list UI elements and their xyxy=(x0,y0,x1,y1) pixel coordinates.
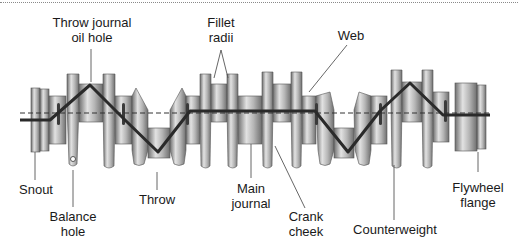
leader-fillet-2 xyxy=(221,50,228,78)
web-3a xyxy=(200,74,211,168)
label-snout: Snout xyxy=(14,182,58,197)
throw-journal-5 xyxy=(334,128,354,158)
web-5b xyxy=(354,92,371,166)
web-1b xyxy=(103,74,115,168)
flywheel-flange xyxy=(455,83,477,151)
throw-journal-3 xyxy=(211,84,227,122)
label-counterweight: Counterweight xyxy=(348,222,442,237)
label-balance-hole: Balance hole xyxy=(46,209,100,239)
label-web: Web xyxy=(333,28,369,43)
web-6b xyxy=(422,70,433,168)
web-3b xyxy=(227,74,238,168)
web-4b xyxy=(291,72,302,168)
label-flywheel-flange: Flywheel flange xyxy=(448,180,508,210)
label-crank-cheek: Crank cheek xyxy=(284,209,328,239)
leader-web xyxy=(309,45,347,92)
balance-hole xyxy=(71,157,76,162)
main-journal-center xyxy=(238,96,262,144)
label-throw-journal-oil-hole: Throw journal oil hole xyxy=(49,15,135,45)
counterweight-2 xyxy=(391,70,402,168)
crankshaft-body xyxy=(31,70,486,168)
web-5a xyxy=(316,92,334,166)
label-main-journal: Main journal xyxy=(226,181,276,211)
counterweight-1 xyxy=(67,74,79,166)
leader-fillet-1 xyxy=(214,50,221,78)
main-journal-5 xyxy=(302,96,316,144)
throw-journal-4 xyxy=(273,84,291,122)
flywheel-flange-rim xyxy=(477,85,486,149)
web-2a xyxy=(132,88,148,166)
web-4a xyxy=(262,72,273,168)
label-fillet-radii: Fillet radii xyxy=(200,15,242,45)
label-throw: Throw xyxy=(134,192,180,207)
